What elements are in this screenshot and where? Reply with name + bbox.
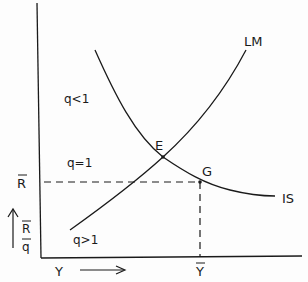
y-arrow-label-r: R [22, 222, 30, 236]
region-q-gt-1: q>1 [73, 233, 98, 247]
point-g-label: G [202, 164, 212, 179]
ybar-tick-label: Y [195, 264, 204, 279]
is-label: IS [282, 191, 294, 206]
y-axis [37, 3, 41, 258]
lm-label: LM [244, 34, 262, 49]
y-arrow-label-q: q [22, 240, 30, 254]
rbar-tick-label: R [17, 176, 26, 191]
is-curve [95, 50, 275, 196]
point-e-marker [161, 155, 165, 159]
point-e-label: E [155, 138, 163, 153]
x-axis [41, 256, 302, 258]
point-g-marker [198, 180, 202, 184]
region-q-lt-1: q<1 [64, 92, 89, 106]
x-axis-label: Y [54, 264, 63, 279]
region-q-eq-1: q=1 [67, 156, 92, 170]
diagram-svg: LM IS E G q<1 q=1 q>1 R R q Y Y [0, 0, 308, 282]
is-lm-diagram: LM IS E G q<1 q=1 q>1 R R q Y Y [0, 0, 308, 282]
